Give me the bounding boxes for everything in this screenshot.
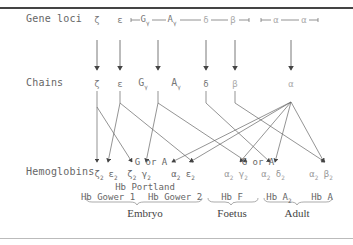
gamma-note-right: G or A <box>242 157 275 167</box>
hb-epsilon2: ε2 <box>108 169 117 181</box>
name-hb-a: Hb A <box>311 192 333 202</box>
hb-alpha2-epsilon2: α2 ε2 <box>171 169 195 181</box>
hb-zeta2-gamma2: ζ2 γ2 <box>127 169 151 181</box>
name-hb-f: Hb F <box>221 192 243 202</box>
name-hb-gower-2: Hb Gower 2 <box>148 192 202 202</box>
hb-zeta2-epsilon2: ζ2 <box>94 169 103 181</box>
hb-alpha2-gamma2: α2 γ2 <box>224 169 248 181</box>
stage-foetus: Foetus <box>217 207 246 219</box>
name-hb-a2: Hb A2 <box>266 192 291 204</box>
hb-alpha2-delta2: α2 δ2 <box>261 169 285 181</box>
gamma-note-left: G or A <box>135 157 168 167</box>
name-hb-gower-1: Hb Gower 1 <box>81 192 135 202</box>
name-hb-portland: Hb Portland <box>115 182 175 192</box>
stage-embryo: Embryo <box>127 207 162 219</box>
hb-alpha2-beta2: α2 β2 <box>309 169 333 181</box>
stage-adult: Adult <box>284 207 309 219</box>
